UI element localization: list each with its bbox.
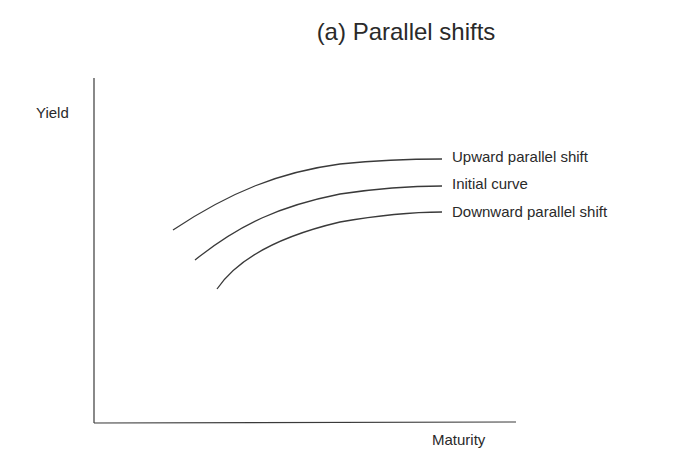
initial-curve: [195, 186, 442, 260]
plot-area: [0, 0, 692, 476]
x-axis: [94, 422, 516, 423]
upward-shift-curve: [173, 159, 442, 230]
downward-shift-label: Downward parallel shift: [452, 203, 607, 220]
upward-shift-label: Upward parallel shift: [452, 148, 588, 165]
initial-curve-label: Initial curve: [452, 175, 528, 192]
